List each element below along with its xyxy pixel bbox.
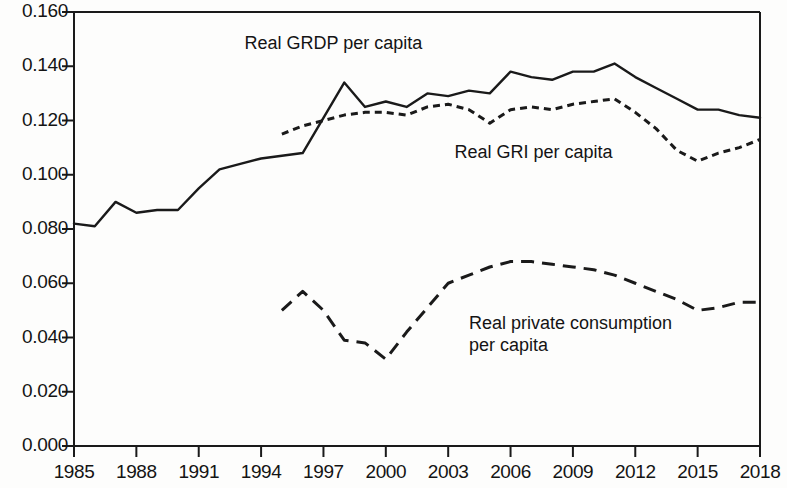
y-axis-tick-label: 0.060 — [0, 271, 68, 293]
y-axis-tick-label: 0.120 — [0, 109, 68, 131]
x-axis-tick-label: 1988 — [116, 461, 157, 483]
y-axis-tick-label: 0.000 — [0, 434, 68, 456]
x-axis-tick-label: 2000 — [365, 461, 406, 483]
x-axis-tick-label: 2012 — [615, 461, 656, 483]
x-axis-tick-label: 1991 — [178, 461, 219, 483]
y-axis-tick-label: 0.100 — [0, 163, 68, 185]
annotation-line: Real GRDP per capita — [244, 32, 422, 55]
series-annotation-1: Real GRI per capita — [454, 141, 612, 164]
line-chart-canvas — [0, 0, 787, 488]
x-axis-tick-label: 1994 — [241, 461, 282, 483]
x-axis-tick-label: 2003 — [428, 461, 469, 483]
series-line-0 — [74, 64, 760, 227]
series-annotation-0: Real GRDP per capita — [244, 32, 422, 55]
x-axis-ticks — [74, 446, 760, 457]
annotation-line: per capita — [469, 334, 672, 357]
chart-figure: 0.0000.0200.0400.0600.0800.1000.1200.140… — [0, 0, 787, 488]
y-axis-tick-label: 0.080 — [0, 217, 68, 239]
x-axis-tick-label: 1997 — [303, 461, 344, 483]
annotation-line: Real private consumption — [469, 312, 672, 335]
y-axis-tick-label: 0.140 — [0, 54, 68, 76]
x-axis-tick-label: 2009 — [553, 461, 594, 483]
y-axis-tick-label: 0.020 — [0, 380, 68, 402]
x-axis-tick-label: 2006 — [490, 461, 531, 483]
y-axis-tick-label: 0.160 — [0, 0, 68, 22]
axis-frame — [74, 12, 760, 446]
x-axis-tick-label: 2015 — [677, 461, 718, 483]
x-axis-tick-label: 2018 — [740, 461, 781, 483]
x-axis-tick-label: 1985 — [54, 461, 95, 483]
y-axis-tick-label: 0.040 — [0, 326, 68, 348]
annotation-line: Real GRI per capita — [454, 141, 612, 164]
series-annotation-2: Real private consumptionper capita — [469, 312, 672, 357]
